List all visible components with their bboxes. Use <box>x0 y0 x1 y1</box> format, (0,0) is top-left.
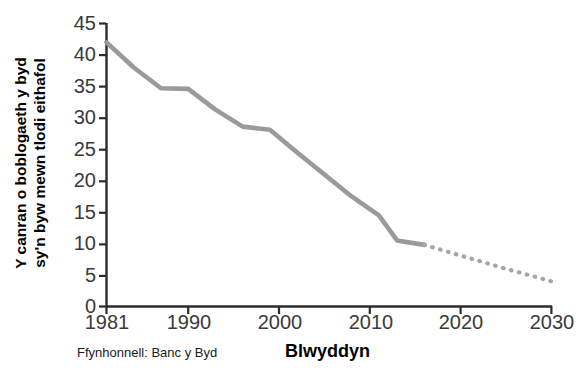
data-line-solid <box>107 42 425 245</box>
y-tick-marks <box>99 24 106 307</box>
plot-area <box>0 0 582 377</box>
data-line-dotted-projection <box>424 245 551 281</box>
source-note: Ffynhonnell: Banc y Byd <box>77 345 217 360</box>
chart-container: Y canran o boblogaeth y byd sy'n byw mew… <box>0 0 582 377</box>
x-axis-title: Blwyddyn <box>285 341 370 362</box>
